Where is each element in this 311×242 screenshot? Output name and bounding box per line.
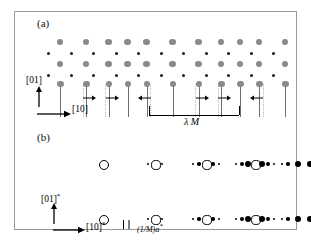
diffraction-spot-main — [295, 216, 302, 223]
lattice-atom-large — [282, 61, 288, 67]
diffraction-spot-fundamental — [202, 160, 211, 169]
diffraction-spot-satellite — [307, 216, 311, 223]
lattice-stem — [240, 84, 241, 117]
diffraction-spot-satellite — [281, 218, 284, 221]
axis-label-10-star: [10]* — [86, 220, 105, 232]
lattice-atom-small — [182, 52, 185, 55]
diffraction-spot-satellite — [259, 161, 265, 167]
lattice-atom-small — [70, 52, 73, 55]
diffraction-spot-satellite — [266, 217, 270, 221]
lattice-atom-small — [92, 52, 95, 55]
lattice-atom-large — [170, 81, 176, 87]
lattice-atom-large — [83, 39, 89, 45]
axis-arrow-01-star-icon — [50, 203, 64, 225]
panel-a-label: (a) — [37, 17, 49, 29]
diffraction-spot-satellite — [147, 163, 149, 165]
lattice-atom-large — [256, 61, 262, 67]
lattice-atom-large — [57, 61, 63, 67]
bracket-tick-left — [149, 106, 150, 115]
diffraction-spot-satellite — [281, 163, 284, 166]
diffraction-spot-satellite — [211, 217, 215, 221]
lattice-atom-large — [106, 81, 112, 87]
lattice-atom-large — [105, 39, 111, 45]
lattice-atom-large — [143, 39, 149, 45]
lattice-atom-large — [105, 61, 111, 67]
diffraction-spot-satellite — [307, 161, 311, 168]
axis-label-01: [01] — [26, 75, 42, 85]
diffraction-spot-satellite — [197, 162, 201, 166]
spacing-label: (1/M)a* — [137, 222, 163, 234]
diffraction-spot-satellite — [161, 163, 163, 165]
lattice-atom-small — [272, 74, 275, 77]
figure-root: (a) [01] [10] λ M (b) [01]* — [0, 0, 311, 242]
lattice-atom-large — [218, 81, 224, 87]
lattice-stem — [285, 84, 286, 117]
lattice-atom-large — [143, 61, 149, 67]
spacing-tick-icon — [122, 220, 134, 233]
diffraction-spot-satellite — [197, 217, 201, 221]
diffraction-spot-fundamental — [202, 215, 211, 224]
lattice-atom-small — [137, 74, 140, 77]
displacement-arrow-icon — [83, 93, 96, 103]
diffraction-spot-satellite — [218, 218, 221, 221]
lattice-atom-small — [227, 52, 230, 55]
diffraction-spot-satellite — [147, 218, 149, 220]
lattice-atom-large — [125, 81, 131, 87]
diffraction-spot-satellite — [273, 163, 276, 166]
diffraction-spot-satellite — [161, 218, 163, 220]
lattice-atom-large — [282, 81, 288, 87]
axis-arrow-10-icon — [37, 108, 73, 120]
panel-b-label: (b) — [37, 131, 50, 143]
axis-label-10: [10] — [72, 104, 88, 114]
diffraction-spot-satellite — [266, 162, 270, 166]
lattice-atom-large — [256, 81, 262, 87]
lattice-atom-large — [169, 39, 175, 45]
displacement-arrow-icon — [250, 93, 263, 103]
diffraction-spot-satellite — [245, 161, 251, 167]
displacement-arrow-icon — [196, 93, 209, 103]
lattice-atom-small — [92, 74, 95, 77]
lattice-atom-large — [169, 61, 175, 67]
bracket-tick-right — [239, 106, 240, 115]
displacement-arrow-icon — [218, 93, 231, 103]
modulation-period-label: λ M — [184, 116, 199, 127]
lattice-atom-small — [70, 74, 73, 77]
lattice-atom-small — [272, 52, 275, 55]
lattice-stem — [173, 84, 174, 117]
lattice-atom-small — [160, 52, 163, 55]
diffraction-spot-satellite — [192, 163, 195, 166]
lattice-atom-large — [195, 39, 201, 45]
diffraction-spot-satellite — [273, 218, 276, 221]
diffraction-spot-satellite — [259, 216, 265, 222]
diffraction-spot-satellite — [235, 163, 238, 166]
diffraction-spot-satellite — [245, 216, 251, 222]
lattice-atom-large — [218, 61, 224, 67]
lattice-atom-large — [256, 39, 262, 45]
lattice-atom-small — [160, 74, 163, 77]
lattice-atom-small — [47, 74, 50, 77]
diffraction-spot-fundamental — [99, 160, 109, 170]
lattice-atom-small — [205, 52, 208, 55]
diffraction-spot-satellite — [286, 162, 290, 166]
lattice-atom-large — [57, 81, 63, 87]
lattice-atom-large — [83, 61, 89, 67]
diffraction-spot-main — [295, 161, 302, 168]
diffraction-spot-satellite — [286, 217, 290, 221]
lattice-atom-large — [196, 81, 202, 87]
lattice-atom-small — [250, 52, 253, 55]
diffraction-spot-satellite — [211, 162, 215, 166]
lattice-stem — [128, 84, 129, 117]
lattice-atom-small — [227, 74, 230, 77]
displacement-arrow-icon — [138, 93, 151, 103]
figure-frame: (a) [01] [10] λ M (b) [01]* — [14, 11, 297, 230]
lattice-atom-large — [195, 61, 201, 67]
lattice-atom-large — [57, 39, 63, 45]
lattice-atom-small — [115, 52, 118, 55]
lattice-atom-large — [124, 61, 130, 67]
lattice-atom-small — [115, 74, 118, 77]
lattice-atom-large — [237, 39, 243, 45]
displacement-arrow-icon — [106, 93, 119, 103]
diffraction-spot-satellite — [192, 218, 195, 221]
diffraction-spot-satellite — [240, 217, 244, 221]
lattice-atom-large — [218, 39, 224, 45]
